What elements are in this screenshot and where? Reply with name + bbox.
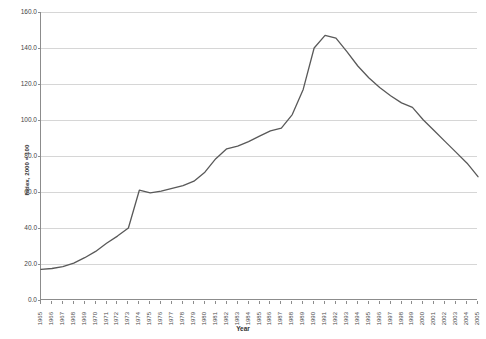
x-axis-tick-mark xyxy=(401,301,402,304)
series-line xyxy=(41,12,478,300)
y-axis-tick-label: 60.0 xyxy=(5,188,37,195)
x-axis-tick-label: 1966 xyxy=(47,312,55,325)
x-axis-tick-label: 1990 xyxy=(309,312,317,325)
x-axis-tick-label: 1969 xyxy=(80,312,88,325)
x-axis-tick-mark xyxy=(390,301,391,304)
x-axis-tick-label: 2004 xyxy=(462,312,470,325)
x-axis-tick-label: 1978 xyxy=(178,312,186,325)
plot-area: 0.020.040.060.080.0100.0120.0140.0160.0 xyxy=(40,12,477,300)
x-axis-tick-label: 2000 xyxy=(418,312,426,325)
x-axis-tick-mark xyxy=(73,301,74,304)
x-axis-tick-mark xyxy=(116,301,117,304)
x-axis-title: Year xyxy=(0,325,486,332)
x-axis-tick-mark xyxy=(313,301,314,304)
x-axis-tick-label: 2001 xyxy=(429,312,437,325)
x-axis-tick-mark xyxy=(127,301,128,304)
line-chart: Index, 2000 = 100 0.020.040.060.080.0100… xyxy=(0,0,486,339)
x-axis-tick-label: 1967 xyxy=(58,312,66,325)
y-axis-tick-label: 160.0 xyxy=(5,8,37,15)
y-axis-tick-label: 140.0 xyxy=(5,44,37,51)
x-axis-tick-mark xyxy=(204,301,205,304)
x-axis-tick-mark xyxy=(138,301,139,304)
x-axis-tick-mark xyxy=(149,301,150,304)
x-axis-tick-mark xyxy=(237,301,238,304)
x-axis-tick-label: 1985 xyxy=(255,312,263,325)
x-axis-tick-label: 1997 xyxy=(386,312,394,325)
x-axis-tick-mark xyxy=(422,301,423,304)
x-axis-tick-mark xyxy=(171,301,172,304)
y-axis-tick-label: 80.0 xyxy=(5,152,37,159)
x-axis-tick-label: 1995 xyxy=(364,312,372,325)
x-axis-tick-label: 1986 xyxy=(265,312,273,325)
x-axis-tick-mark xyxy=(248,301,249,304)
x-axis-tick-mark xyxy=(335,301,336,304)
x-axis-tick-mark xyxy=(269,301,270,304)
y-axis-tick-label: 120.0 xyxy=(5,80,37,87)
x-axis-tick-label: 1993 xyxy=(342,312,350,325)
x-axis-tick-mark xyxy=(106,301,107,304)
y-axis-tick-label: 0.0 xyxy=(5,296,37,303)
x-axis-tick-label: 1992 xyxy=(331,312,339,325)
x-axis-tick-mark xyxy=(302,301,303,304)
x-axis-tick-labels: 1965196619671968196919701971197219731974… xyxy=(40,301,477,325)
x-axis-tick-mark xyxy=(280,301,281,304)
x-axis-tick-mark xyxy=(324,301,325,304)
x-axis-tick-mark xyxy=(379,301,380,304)
x-axis-tick-mark xyxy=(182,301,183,304)
x-axis-tick-label: 1987 xyxy=(276,312,284,325)
x-axis-tick-mark xyxy=(226,301,227,304)
x-axis-tick-label: 1970 xyxy=(91,312,99,325)
x-axis-tick-mark xyxy=(40,301,41,304)
x-axis-tick-label: 2002 xyxy=(440,312,448,325)
x-axis-tick-mark xyxy=(444,301,445,304)
x-axis-tick-label: 1976 xyxy=(156,312,164,325)
x-axis-tick-label: 1977 xyxy=(167,312,175,325)
x-axis-tick-mark xyxy=(215,301,216,304)
x-axis-tick-label: 2003 xyxy=(451,312,459,325)
x-axis-tick-mark xyxy=(291,301,292,304)
y-axis-tick-label: 40.0 xyxy=(5,224,37,231)
x-axis-tick-label: 1991 xyxy=(320,312,328,325)
x-axis-tick-label: 1982 xyxy=(222,312,230,325)
x-axis-tick-mark xyxy=(95,301,96,304)
x-axis-tick-label: 1983 xyxy=(233,312,241,325)
x-axis-tick-label: 1989 xyxy=(298,312,306,325)
x-axis-tick-label: 2005 xyxy=(473,312,481,325)
x-axis-tick-mark xyxy=(193,301,194,304)
x-axis-tick-label: 1996 xyxy=(375,312,383,325)
x-axis-tick-label: 1979 xyxy=(189,312,197,325)
x-axis-tick-label: 1999 xyxy=(407,312,415,325)
x-axis-tick-mark xyxy=(455,301,456,304)
x-axis-tick-label: 1965 xyxy=(36,312,44,325)
y-axis-tick-label: 20.0 xyxy=(5,260,37,267)
x-axis-tick-label: 1971 xyxy=(102,312,110,325)
x-axis-tick-mark xyxy=(346,301,347,304)
x-axis-tick-mark xyxy=(357,301,358,304)
x-axis-tick-label: 1981 xyxy=(211,312,219,325)
x-axis-tick-mark xyxy=(466,301,467,304)
x-axis-tick-label: 1975 xyxy=(145,312,153,325)
x-axis-tick-label: 1968 xyxy=(69,312,77,325)
x-axis-tick-label: 1988 xyxy=(287,312,295,325)
x-axis-tick-mark xyxy=(368,301,369,304)
x-axis-tick-mark xyxy=(259,301,260,304)
data-line xyxy=(41,35,478,269)
x-axis-tick-label: 1994 xyxy=(353,312,361,325)
x-axis-tick-label: 1972 xyxy=(112,312,120,325)
x-axis-tick-mark xyxy=(51,301,52,304)
x-axis-tick-mark xyxy=(62,301,63,304)
x-axis-tick-mark xyxy=(477,301,478,304)
x-axis-tick-label: 1984 xyxy=(244,312,252,325)
x-axis-tick-mark xyxy=(84,301,85,304)
x-axis-tick-mark xyxy=(433,301,434,304)
x-axis-tick-mark xyxy=(411,301,412,304)
x-axis-tick-label: 1980 xyxy=(200,312,208,325)
x-axis-tick-label: 1973 xyxy=(123,312,131,325)
x-axis-tick-mark xyxy=(160,301,161,304)
y-axis-tick-label: 100.0 xyxy=(5,116,37,123)
x-axis-tick-label: 1974 xyxy=(134,312,142,325)
x-axis-tick-label: 1998 xyxy=(397,312,405,325)
